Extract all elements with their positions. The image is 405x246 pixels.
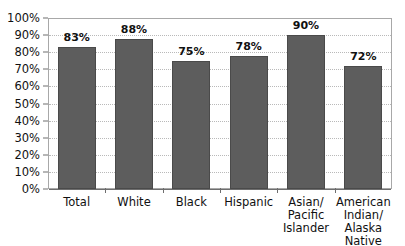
x-tick-mark — [277, 188, 278, 193]
bar — [287, 35, 325, 189]
bar — [230, 56, 268, 189]
x-tick-mark — [220, 188, 221, 193]
x-tick-label: Hispanic — [220, 196, 277, 209]
x-tick-label: White — [105, 196, 162, 209]
y-tick-label: 50% — [14, 98, 40, 110]
x-tick-label: Black — [163, 196, 220, 209]
x-tick-mark — [105, 188, 106, 193]
x-tick-mark — [335, 188, 336, 193]
bar — [344, 66, 382, 189]
bar-slot: 90% — [277, 18, 334, 189]
x-tick-label: Total — [48, 196, 105, 209]
y-tick-label: 20% — [14, 149, 40, 161]
bar-value-label: 90% — [293, 20, 319, 32]
y-tick-label: 30% — [14, 132, 40, 144]
x-tick-label: American Indian/ Alaska Native — [335, 196, 392, 246]
bar-value-label: 88% — [121, 24, 147, 36]
bar — [58, 47, 96, 189]
y-tick-label: 40% — [14, 115, 40, 127]
bar-slot: 88% — [105, 18, 162, 189]
bar-value-label: 75% — [178, 46, 204, 58]
bar — [172, 61, 210, 189]
bar-chart: 100%90%80%70%60%50%40%30%20%10%0% 83%88%… — [0, 0, 405, 246]
x-tick-mark — [163, 188, 164, 193]
y-tick-label: 0% — [22, 183, 40, 195]
bar-value-label: 78% — [235, 41, 261, 53]
y-tick-label: 60% — [14, 80, 40, 92]
x-tick-label: Asian/ Pacific Islander — [277, 196, 334, 235]
bar-value-label: 72% — [350, 51, 376, 63]
bars-layer: 83%88%75%78%90%72% — [48, 18, 392, 189]
y-tick-label: 10% — [14, 166, 40, 178]
bar-slot: 83% — [48, 18, 105, 189]
bar-slot: 78% — [220, 18, 277, 189]
bar — [115, 39, 153, 189]
y-axis: 100%90%80%70%60%50%40%30%20%10%0% — [0, 18, 44, 189]
bar-slot: 72% — [335, 18, 392, 189]
y-tick-label: 80% — [14, 46, 40, 58]
x-axis: TotalWhiteBlackHispanicAsian/ Pacific Is… — [48, 192, 392, 246]
bar-slot: 75% — [163, 18, 220, 189]
bar-value-label: 83% — [63, 32, 89, 44]
y-tick-label: 100% — [7, 12, 40, 24]
y-tick-label: 90% — [14, 29, 40, 41]
y-tick-label: 70% — [14, 63, 40, 75]
